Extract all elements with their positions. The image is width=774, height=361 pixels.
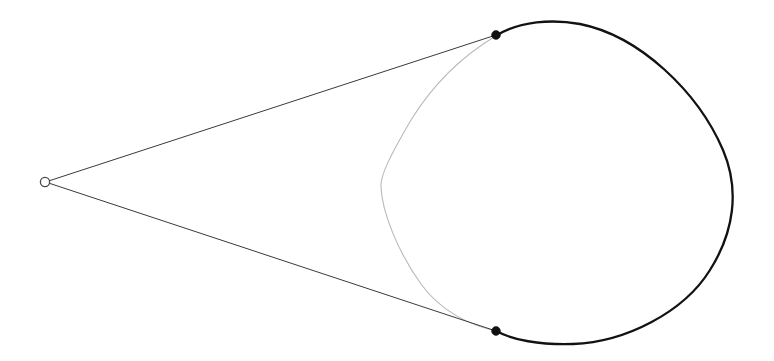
figure-background	[0, 0, 774, 361]
tangent-point-upper-marker	[492, 31, 501, 40]
tangent-point-lower-marker	[492, 327, 501, 336]
apex-vertex-marker	[40, 177, 49, 186]
figure-canvas: Tangent lines from an external point to …	[0, 0, 774, 361]
tangent-cone-diagram: Tangent lines from an external point to …	[0, 0, 774, 361]
